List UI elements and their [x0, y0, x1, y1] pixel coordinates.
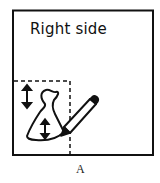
box-label: Right side	[30, 20, 107, 38]
double-arrow-inside-icon	[42, 120, 49, 139]
instruction-diagram: Right side A	[0, 0, 160, 183]
figure-caption: A	[76, 162, 85, 177]
pencil-icon	[61, 96, 98, 136]
double-arrow-outside-icon	[23, 85, 31, 108]
